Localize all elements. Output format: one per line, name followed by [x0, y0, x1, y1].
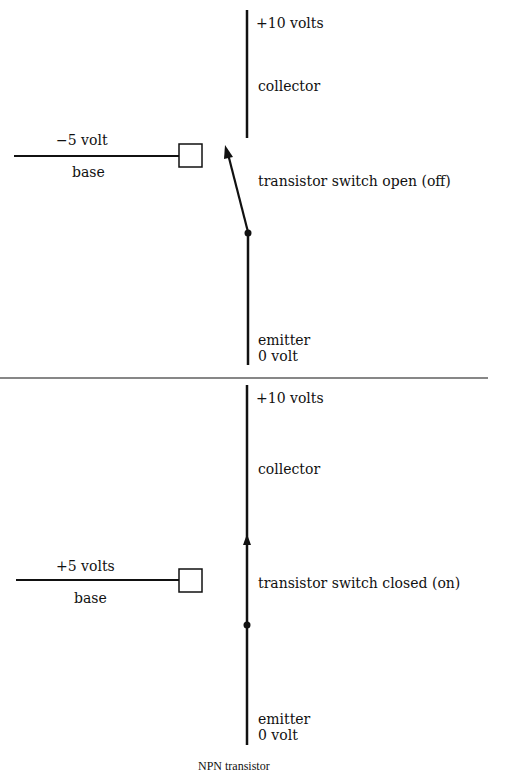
top-arrow-head-icon — [224, 145, 233, 159]
bottom-collector-label: collector — [258, 461, 320, 477]
top-switch-arm-open — [228, 154, 248, 232]
bottom-base-label: base — [74, 590, 107, 606]
bottom-collector-voltage: +10 volts — [256, 390, 324, 406]
bottom-base-voltage: +5 volts — [56, 558, 115, 574]
top-base-label: base — [72, 164, 105, 180]
figure-caption: NPN transistor — [198, 759, 270, 774]
bottom-switch-state: transistor switch closed (on) — [258, 575, 460, 591]
top-base-voltage: −5 volt — [56, 132, 108, 148]
top-collector-label: collector — [258, 78, 320, 94]
top-collector-voltage: +10 volts — [256, 15, 324, 31]
transistor-switch-diagram — [0, 0, 506, 778]
top-switch-state: transistor switch open (off) — [258, 173, 451, 189]
bottom-pivot-dot-icon — [244, 622, 251, 629]
bottom-base-terminal-icon — [179, 569, 202, 592]
bottom-emitter-voltage: 0 volt — [258, 727, 298, 743]
bottom-emitter-label: emitter — [258, 711, 310, 727]
top-emitter-voltage: 0 volt — [258, 348, 298, 364]
bottom-arrow-head-icon — [243, 534, 251, 545]
top-emitter-label: emitter — [258, 332, 310, 348]
top-base-terminal-icon — [179, 144, 202, 167]
